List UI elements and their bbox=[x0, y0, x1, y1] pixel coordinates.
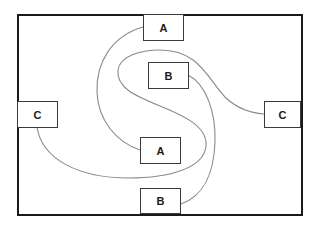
node-label: C bbox=[279, 109, 287, 121]
diagram-canvas: A B C C A B bbox=[0, 0, 315, 225]
node-c-right: C bbox=[264, 101, 301, 128]
node-label: A bbox=[157, 145, 165, 157]
node-label: C bbox=[34, 109, 42, 121]
node-label: A bbox=[160, 22, 168, 34]
node-a-top: A bbox=[143, 14, 184, 41]
node-b-lower: B bbox=[140, 188, 181, 214]
node-b-upper: B bbox=[148, 62, 189, 89]
node-label: B bbox=[165, 70, 173, 82]
connection-a bbox=[97, 27, 143, 150]
connection-b bbox=[181, 75, 215, 204]
node-c-left: C bbox=[17, 101, 58, 128]
node-label: B bbox=[157, 195, 165, 207]
node-a-lower: A bbox=[140, 137, 181, 164]
